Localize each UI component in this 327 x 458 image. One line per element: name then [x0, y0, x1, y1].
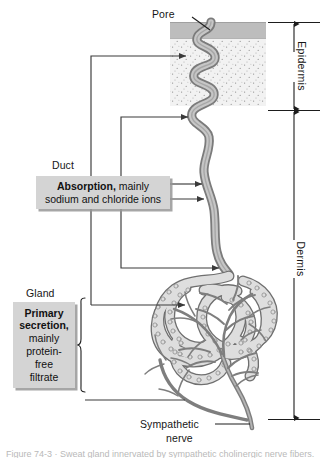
sympathetic-nerve-label-line2: nerve [166, 432, 193, 444]
absorption-callout: Absorption, mainly sodium and chloride i… [36, 176, 170, 209]
dermis-label: Dermis [295, 241, 307, 276]
leader-absorption-down-inner [121, 209, 219, 268]
coiled-gland [153, 276, 276, 382]
stratum-corneum-band [170, 22, 266, 39]
secretion-line6: filtrate [30, 371, 59, 384]
depth-scale [268, 23, 320, 420]
sympathetic-nerve-label-line1: Sympathetic [140, 418, 199, 430]
epidermis-label: Epidermis [296, 41, 308, 90]
secretion-bold-line2: secretion, [19, 319, 69, 331]
figure-caption: Figure 74-3 · Sweat gland innervated by … [6, 450, 324, 458]
pore-label: Pore [152, 8, 175, 20]
leader-duct-lower [121, 117, 188, 176]
figure-root: Pore Duct Gland Sympathetic nerve Epider… [0, 0, 327, 458]
absorption-rest-text: mainly [116, 180, 149, 192]
secretion-line4: protein- [26, 345, 62, 358]
absorption-line2: sodium and chloride ions [45, 193, 161, 206]
primary-secretion-callout: Primary secretion, mainly protein- free … [13, 302, 75, 388]
absorption-bold-text: Absorption, [57, 180, 116, 192]
secretion-line3: mainly [29, 332, 59, 345]
gland-label: Gland [26, 287, 55, 299]
duct-label: Duct [52, 159, 74, 171]
secretion-brace [77, 298, 85, 392]
secretion-line5: free [35, 358, 53, 371]
sweat-gland-diagram [0, 0, 327, 458]
secretion-bold-line1: Primary [24, 307, 63, 319]
